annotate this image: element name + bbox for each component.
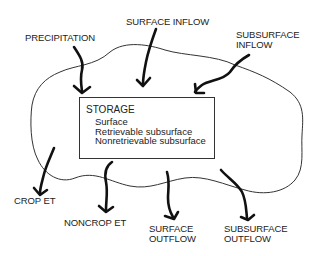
precipitation-label: PRECIPITATION (25, 33, 95, 43)
surface-outflow-label-line2: OUTFLOW (149, 234, 196, 244)
storage-box: STORAGE Surface Retrievable subsurface N… (79, 97, 215, 159)
surface-inflow-label: SURFACE INFLOW (126, 17, 209, 27)
crop-et-arrow (40, 148, 54, 193)
surface-inflow-arrow (143, 29, 156, 84)
precipitation-arrow (74, 47, 83, 91)
subsurface-outflow-label-line2: OUTFLOW (224, 234, 271, 244)
noncrop-et-arrow (105, 162, 112, 210)
storage-item-nonretrievable-subsurface: Nonretrievable subsurface (95, 136, 206, 146)
noncrop-et-label: NONCROP ET (64, 218, 126, 228)
crop-et-label: CROP ET (14, 196, 55, 206)
storage-items: Surface Retrievable subsurface Nonretrie… (95, 117, 206, 146)
surface-outflow-arrow (167, 172, 173, 217)
subsurface-outflow-arrow (221, 170, 247, 218)
storage-title: STORAGE (86, 104, 135, 115)
subsurface-inflow-label-line2: INFLOW (236, 40, 272, 50)
